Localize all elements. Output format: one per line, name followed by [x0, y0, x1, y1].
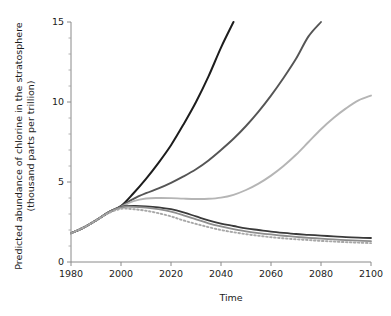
y-tick-label: 15: [52, 16, 64, 27]
x-tick-label: 2100: [359, 268, 383, 279]
x-tick-label: 2020: [159, 268, 183, 279]
y-tick-label: 0: [58, 256, 64, 267]
x-tick-label: 2080: [309, 268, 333, 279]
x-tick-label: 1980: [59, 268, 83, 279]
y-tick-label: 10: [52, 96, 64, 107]
x-tick-label: 2060: [259, 268, 283, 279]
x-tick-label: 2040: [209, 268, 233, 279]
series-line-montreal-1987: [71, 22, 321, 233]
y-axis-title-line1: Predicted abundance of chlorine in the s…: [13, 22, 24, 270]
series-line-london-1990: [71, 96, 371, 234]
line-chart-canvas: 0510151980200020202040206020802100 Time …: [0, 0, 391, 316]
x-tick-label: 2000: [109, 268, 133, 279]
series-group: [71, 22, 371, 243]
axis-titles-group: Time Predicted abundance of chlorine in …: [13, 22, 243, 303]
y-tick-label: 5: [58, 176, 64, 187]
chart-figure: 0510151980200020202040206020802100 Time …: [0, 0, 391, 316]
series-line-no-protocol: [71, 22, 234, 233]
series-line-copenhagen-1992: [71, 206, 371, 238]
y-axis-title-line2: (thousand parts per trillion): [25, 80, 36, 211]
x-axis-title: Time: [218, 292, 242, 303]
